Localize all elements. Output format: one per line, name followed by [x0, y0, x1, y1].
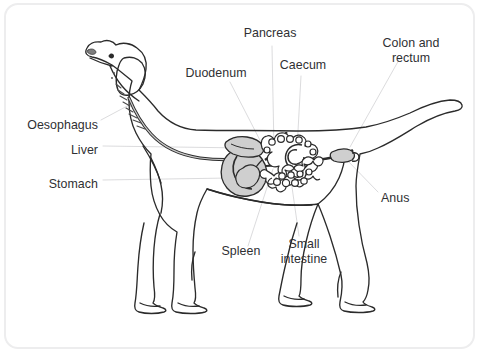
diagram-canvas: Pancreas Colon and rectum Caecum Duodenu… — [0, 0, 481, 354]
paw-crease-front-far — [140, 303, 160, 306]
shoulder-line — [143, 146, 161, 183]
leader-stomach — [103, 178, 230, 180]
leader-colon-rectum — [350, 58, 400, 147]
front-far-leg — [135, 214, 166, 314]
dog-eye — [109, 54, 115, 59]
rear-far-leg — [279, 204, 318, 307]
leader-pancreas — [272, 46, 274, 150]
dog-nose — [87, 49, 96, 54]
dog-ear — [116, 57, 145, 95]
dog-digestive-system-illustration — [0, 0, 481, 354]
leader-anus — [345, 158, 378, 192]
chest-line — [151, 158, 163, 213]
leader-oesophagus — [101, 104, 131, 120]
leader-liver — [103, 146, 244, 148]
